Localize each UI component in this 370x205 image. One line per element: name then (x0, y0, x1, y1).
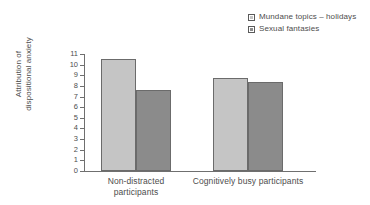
y-axis-tick-label: 10 (64, 61, 78, 69)
category-label-line: Cognitively busy participants (187, 176, 309, 187)
y-axis-line (84, 54, 85, 172)
dark-gray-swatch-icon (248, 26, 255, 33)
y-axis-tick (80, 171, 85, 172)
bar (136, 90, 171, 171)
y-axis-tick (80, 107, 85, 108)
y-axis-tick-label: 2 (64, 146, 78, 154)
chart-legend: Mundane topics – holidays Sexual fantasi… (248, 13, 356, 33)
y-axis-tick-label: 5 (64, 114, 78, 122)
x-axis-category-label-0: Non-distracted participants (96, 176, 176, 198)
bar (248, 82, 283, 171)
y-axis-tick (80, 97, 85, 98)
legend-item-label: Sexual fantasies (259, 25, 319, 33)
x-axis-line (84, 171, 316, 172)
y-axis-tick-label: 0 (64, 167, 78, 175)
y-axis-tick-label: 11 (64, 50, 78, 58)
y-axis-tick (80, 160, 85, 161)
y-axis-tick (80, 128, 85, 129)
y-axis-tick (80, 75, 85, 76)
y-axis-tick (80, 86, 85, 87)
y-axis-tick-label: 1 (64, 156, 78, 164)
y-axis-title-line-2: dispositional anxiety (24, 14, 34, 134)
y-axis-tick (80, 118, 85, 119)
y-axis-tick (80, 65, 85, 66)
y-axis-tick-label: 3 (64, 135, 78, 143)
y-axis-tick (80, 150, 85, 151)
y-axis-tick-label: 6 (64, 103, 78, 111)
y-axis-title: Attribution of dispositional anxiety (14, 14, 34, 134)
bar (101, 59, 136, 171)
y-axis-tick (80, 139, 85, 140)
y-axis-tick-label: 7 (64, 93, 78, 101)
light-gray-swatch-icon (248, 14, 255, 21)
y-axis-tick (80, 54, 85, 55)
legend-item-mundane-topics: Mundane topics – holidays (248, 13, 356, 21)
y-axis-tick-label: 8 (64, 82, 78, 90)
legend-item-sexual-fantasies: Sexual fantasies (248, 25, 356, 33)
bar (213, 78, 248, 171)
y-axis-tick-label: 9 (64, 71, 78, 79)
x-axis-category-label-1: Cognitively busy participants (187, 176, 309, 187)
category-label-line: Non-distracted (96, 176, 176, 187)
y-axis-title-line-1: Attribution of (14, 14, 24, 134)
legend-item-label: Mundane topics – holidays (259, 13, 356, 21)
y-axis-tick-label: 4 (64, 124, 78, 132)
bar-chart: Mundane topics – holidays Sexual fantasi… (0, 0, 370, 205)
category-label-line: participants (96, 187, 176, 198)
